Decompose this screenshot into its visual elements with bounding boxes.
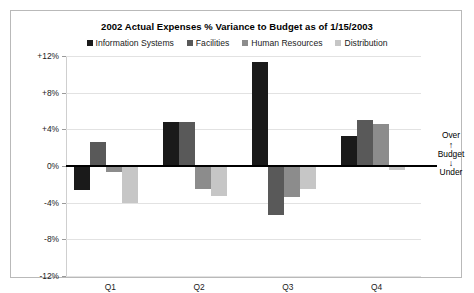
gridline — [66, 239, 421, 240]
legend-item[interactable]: Facilities — [187, 38, 229, 48]
gridline — [66, 56, 421, 57]
chart-legend: Information SystemsFacilitiesHuman Resou… — [11, 38, 463, 48]
legend-swatch-icon — [335, 40, 341, 46]
y-axis-tick — [62, 239, 66, 240]
gridline — [66, 276, 421, 277]
bar — [163, 122, 179, 166]
x-axis-category-label: Q3 — [282, 282, 293, 292]
bar — [268, 166, 284, 215]
y-axis-tick — [62, 93, 66, 94]
y-axis-tick-label: -12% — [39, 271, 59, 281]
gridline — [66, 203, 421, 204]
budget-direction-annotation: Over ↑ Budget ↓ Under — [429, 131, 473, 178]
bar — [195, 166, 211, 189]
x-axis-category-label: Q2 — [194, 282, 205, 292]
y-axis-tick-label: +12% — [37, 51, 59, 61]
bar — [252, 62, 268, 167]
y-axis-tick-label: +4% — [42, 124, 59, 134]
bar — [179, 122, 195, 166]
legend-label: Facilities — [196, 38, 229, 48]
legend-swatch-icon — [187, 40, 193, 46]
y-axis-tick-label: +8% — [42, 88, 59, 98]
bar — [357, 120, 373, 166]
y-axis-tick-label: 0% — [47, 161, 59, 171]
plot-area: +12%+8%+4%0%-4%-8%-12%Q1Q2Q3Q4 — [66, 56, 421, 276]
legend-swatch-icon — [242, 40, 248, 46]
bar — [122, 166, 138, 203]
legend-label: Distribution — [344, 38, 387, 48]
legend-label: Information Systems — [96, 38, 174, 48]
bar — [90, 142, 106, 166]
y-axis-tick — [62, 129, 66, 130]
legend-item[interactable]: Distribution — [335, 38, 387, 48]
under-label: Under — [429, 168, 473, 178]
zero-baseline — [66, 165, 437, 167]
y-axis-tick-label: -8% — [44, 234, 59, 244]
legend-item[interactable]: Information Systems — [87, 38, 174, 48]
bar — [300, 166, 316, 189]
legend-item[interactable]: Human Resources — [242, 38, 322, 48]
y-axis-tick — [62, 203, 66, 204]
chart-title: 2002 Actual Expenses % Variance to Budge… — [11, 21, 463, 32]
gridline — [66, 93, 421, 94]
y-axis-tick — [62, 276, 66, 277]
x-axis-category-label: Q1 — [105, 282, 116, 292]
y-axis-tick-label: -4% — [44, 198, 59, 208]
legend-swatch-icon — [87, 40, 93, 46]
bar — [341, 136, 357, 166]
bar — [74, 166, 90, 190]
bar — [211, 166, 227, 196]
bar — [373, 124, 389, 166]
y-axis-tick — [62, 56, 66, 57]
x-axis-category-label: Q4 — [371, 282, 382, 292]
chart-container: 2002 Actual Expenses % Variance to Budge… — [10, 10, 462, 278]
legend-label: Human Resources — [251, 38, 322, 48]
bar — [284, 166, 300, 197]
